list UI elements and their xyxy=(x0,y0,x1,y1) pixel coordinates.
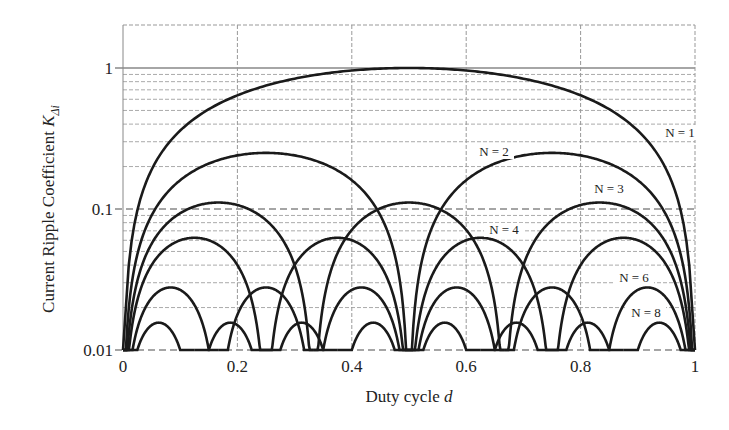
y-tick-label: 0.01 xyxy=(83,341,113,360)
curve-n3 xyxy=(314,203,505,350)
ripple-coefficient-chart: 0.010.11 00.20.40.60.81 N = 1N = 2N = 3N… xyxy=(0,0,729,430)
series-label: N = 2 xyxy=(479,144,509,159)
series-label: N = 8 xyxy=(631,305,661,320)
x-tick-label: 0.6 xyxy=(456,357,477,376)
series-label: N = 4 xyxy=(489,222,519,237)
series-label: N = 6 xyxy=(619,270,649,285)
x-tick-label: 0.2 xyxy=(227,357,248,376)
curve-n6 xyxy=(504,287,599,350)
series-label: N = 3 xyxy=(594,181,624,196)
x-axis-ticks: 00.20.40.60.81 xyxy=(119,357,700,376)
y-tick-label: 0.1 xyxy=(92,200,113,219)
series-label: N = 1 xyxy=(665,125,695,140)
y-axis-title: Current Ripple Coefficient KΔi xyxy=(39,105,62,313)
x-axis-title: Duty cycle d xyxy=(366,387,453,406)
y-tick-label: 1 xyxy=(105,59,114,78)
x-tick-label: 1 xyxy=(691,357,700,376)
curve-n6 xyxy=(218,287,313,350)
x-tick-label: 0.8 xyxy=(570,357,591,376)
x-tick-label: 0 xyxy=(119,357,128,376)
x-tick-label: 0.4 xyxy=(341,357,363,376)
y-axis-ticks: 0.010.11 xyxy=(83,59,113,360)
